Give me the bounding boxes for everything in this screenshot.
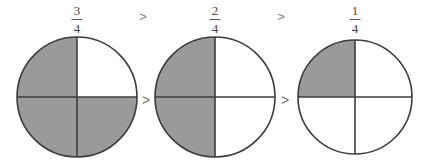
fraction-numerator: 3 — [74, 4, 81, 18]
quadrant-bottom-left-shaded — [17, 97, 77, 157]
quadrant-bottom-left-shaded — [155, 97, 215, 157]
fraction-denominator: 4 — [212, 21, 219, 35]
circle-model-one-fourth — [296, 38, 414, 156]
fraction-comparison-figure: 3 4 2 4 1 4 > > > > — [0, 0, 432, 168]
fraction-label-one-fourth: 1 4 — [350, 4, 361, 35]
fraction-label-two-fourths: 2 4 — [210, 4, 221, 35]
quadrant-top-left-shaded — [17, 37, 77, 97]
quadrant-bottom-right-shaded — [77, 97, 137, 157]
quadrant-bottom-right-unshaded — [215, 97, 275, 157]
circle-model-three-fourths — [15, 35, 139, 159]
greater-than-symbol-top-right: > — [277, 9, 285, 24]
fraction-numerator: 1 — [352, 4, 359, 18]
quadrant-top-right-unshaded — [77, 37, 137, 97]
greater-than-symbol-top-left: > — [139, 9, 147, 24]
fraction-denominator: 4 — [352, 21, 359, 35]
fraction-bar — [210, 19, 221, 20]
greater-than-symbol-mid-left: > — [142, 92, 150, 108]
fraction-bar — [72, 19, 83, 20]
quadrant-top-right-unshaded — [215, 37, 275, 97]
quadrant-top-left-shaded — [155, 37, 215, 97]
fraction-numerator: 2 — [212, 4, 219, 18]
fraction-bar — [350, 19, 361, 20]
greater-than-symbol-mid-right: > — [281, 92, 289, 108]
fraction-label-three-fourths: 3 4 — [72, 4, 83, 35]
circle-model-two-fourths — [153, 35, 277, 159]
fraction-denominator: 4 — [74, 21, 81, 35]
